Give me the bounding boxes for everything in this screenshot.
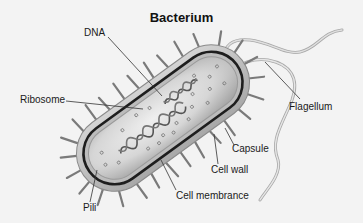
label-pili: Pili xyxy=(83,202,96,213)
bacterium-diagram: Bacterium xyxy=(0,0,363,223)
label-cell-membrane: Cell membrance xyxy=(176,190,249,201)
label-cell-wall: Cell wall xyxy=(211,164,248,175)
label-dna: DNA xyxy=(84,27,105,38)
label-flagellum: Flagellum xyxy=(289,101,332,112)
label-capsule: Capsule xyxy=(232,143,269,154)
label-ribosome: Ribosome xyxy=(20,94,65,105)
